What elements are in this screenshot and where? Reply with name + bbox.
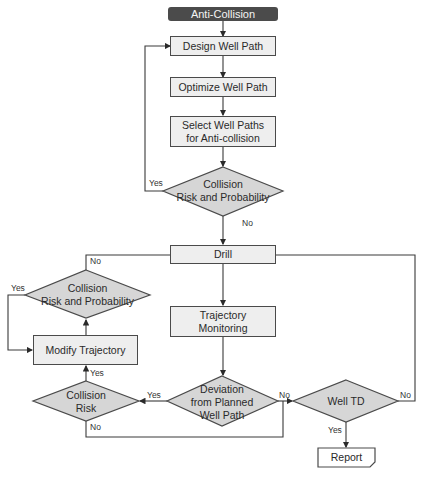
deviation-line-1: Deviation xyxy=(200,383,244,396)
risk1-decision-label: Collision Risk and Probability xyxy=(163,176,283,206)
design-well-path-box: Design Well Path xyxy=(170,36,276,56)
risk2-yes-label: Yes xyxy=(11,283,25,293)
deviation-yes-label: Yes xyxy=(147,390,161,400)
risk3-line-2: Risk xyxy=(76,402,96,415)
risk2-line-1: Collision xyxy=(68,282,108,295)
risk3-yes-label: Yes xyxy=(90,368,104,378)
welltd-yes-label: Yes xyxy=(328,425,342,435)
select-line-2: for Anti-collision xyxy=(186,132,260,145)
deviation-line-2: from Planned xyxy=(191,396,253,409)
deviation-decision-label: Deviation from Planned Well Path xyxy=(172,381,272,423)
risk2-decision-label: Collision Risk and Probability xyxy=(25,280,150,310)
start-node: Anti-Collision xyxy=(168,7,278,21)
select-line-1: Select Well Paths xyxy=(182,119,264,132)
monitor-line-1: Trajectory xyxy=(200,309,246,322)
risk1-line-2: Risk and Probability xyxy=(177,191,270,204)
select-well-paths-box: Select Well Paths for Anti-collision xyxy=(170,116,276,147)
risk1-no-label: No xyxy=(242,218,253,228)
risk3-line-1: Collision xyxy=(66,389,106,402)
modify-trajectory-box: Modify Trajectory xyxy=(33,335,138,365)
risk3-no-label: No xyxy=(90,422,101,432)
report-document-label: Report xyxy=(318,449,375,466)
deviation-no-label: No xyxy=(279,390,290,400)
trajectory-monitoring-box: Trajectory Monitoring xyxy=(170,306,276,337)
risk3-decision-label: Collision Risk xyxy=(40,387,132,417)
monitor-line-2: Monitoring xyxy=(198,322,247,335)
risk2-no-label: No xyxy=(90,256,101,266)
well-td-decision-label: Well TD xyxy=(300,393,392,409)
risk1-yes-label: Yes xyxy=(149,178,163,188)
drill-box: Drill xyxy=(170,245,276,264)
optimize-well-path-box: Optimize Well Path xyxy=(170,77,276,97)
risk2-line-2: Risk and Probability xyxy=(41,295,134,308)
welltd-no-label: No xyxy=(400,390,411,400)
risk1-line-1: Collision xyxy=(203,178,243,191)
deviation-line-3: Well Path xyxy=(200,409,245,422)
